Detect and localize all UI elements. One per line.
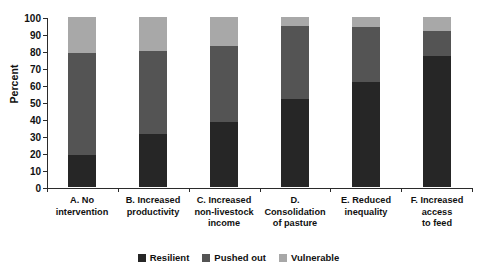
y-tick-label: 100 <box>24 13 41 24</box>
x-category-label-line: intervention <box>43 207 121 219</box>
bar-segment-resilient[interactable] <box>139 134 167 187</box>
bar-segment-resilient[interactable] <box>423 56 451 187</box>
bar-segment-pushed-out[interactable] <box>139 51 167 134</box>
bar-segment-vulnerable[interactable] <box>210 17 238 46</box>
y-tick-mark <box>43 103 47 104</box>
x-category-label-line: of pasture <box>256 218 334 230</box>
y-tick-label: 20 <box>30 149 41 160</box>
y-tick-label: 60 <box>30 81 41 92</box>
bar-d[interactable] <box>281 17 309 187</box>
bar-segment-resilient[interactable] <box>352 82 380 187</box>
x-category-label-line: B. Increased <box>114 195 192 207</box>
y-tick-mark <box>43 120 47 121</box>
bar-segment-vulnerable[interactable] <box>139 17 167 51</box>
bar-segment-resilient[interactable] <box>281 99 309 187</box>
x-tick-mark <box>330 188 331 192</box>
x-category-label: B. Increasedproductivity <box>114 195 192 218</box>
legend-label: Pushed out <box>214 252 266 263</box>
x-tick-mark <box>472 188 473 192</box>
bar-segment-vulnerable[interactable] <box>352 17 380 27</box>
y-tick-mark <box>43 137 47 138</box>
legend-swatch-icon <box>138 254 146 262</box>
bar-segment-pushed-out[interactable] <box>352 27 380 81</box>
y-tick-mark <box>43 154 47 155</box>
bar-a[interactable] <box>68 17 96 187</box>
x-category-label-line: to feed <box>398 218 476 230</box>
x-tick-mark <box>118 188 119 192</box>
legend-item-vulnerable[interactable]: Vulnerable <box>279 252 339 263</box>
legend-item-pushed-out[interactable]: Pushed out <box>202 252 266 263</box>
bar-b[interactable] <box>139 17 167 187</box>
x-category-label: C. Increasednon-livestockincome <box>185 195 263 230</box>
x-tick-mark <box>47 188 48 192</box>
x-category-label-line: Consolidation <box>256 207 334 219</box>
bar-segment-vulnerable[interactable] <box>281 17 309 26</box>
y-tick-mark <box>43 18 47 19</box>
bar-segment-pushed-out[interactable] <box>423 31 451 57</box>
x-category-label: D.Consolidationof pasture <box>256 195 334 230</box>
bar-f[interactable] <box>423 17 451 187</box>
bar-e[interactable] <box>352 17 380 187</box>
bar-c[interactable] <box>210 17 238 187</box>
legend-item-resilient[interactable]: Resilient <box>138 252 190 263</box>
x-category-label-line: F. Increased <box>398 195 476 207</box>
x-category-label-line: access <box>398 207 476 219</box>
x-category-label: E. Reducedinequality <box>327 195 405 218</box>
x-tick-mark <box>260 188 261 192</box>
x-category-label-line: A. No <box>43 195 121 207</box>
y-tick-mark <box>43 52 47 53</box>
bar-segment-pushed-out[interactable] <box>281 26 309 99</box>
stacked-bar-chart: Percent 0102030405060708090100 A. Nointe… <box>0 0 477 272</box>
bar-segment-pushed-out[interactable] <box>68 53 96 155</box>
legend-swatch-icon <box>202 254 210 262</box>
y-axis-title: Percent <box>8 54 20 114</box>
legend-swatch-icon <box>279 254 287 262</box>
y-tick-mark <box>43 171 47 172</box>
x-category-label-line: C. Increased <box>185 195 263 207</box>
bar-segment-vulnerable[interactable] <box>423 17 451 31</box>
x-tick-mark <box>189 188 190 192</box>
y-tick-label: 40 <box>30 115 41 126</box>
x-category-label-line: inequality <box>327 207 405 219</box>
plot-area: 0102030405060708090100 <box>47 18 472 188</box>
x-tick-mark <box>401 188 402 192</box>
x-category-label-line: E. Reduced <box>327 195 405 207</box>
x-category-label-line: non-livestock <box>185 207 263 219</box>
y-tick-mark <box>43 35 47 36</box>
y-tick-mark <box>43 69 47 70</box>
x-category-label-line: D. <box>256 195 334 207</box>
bar-segment-pushed-out[interactable] <box>210 46 238 123</box>
x-category-label-line: productivity <box>114 207 192 219</box>
legend-label: Resilient <box>150 252 190 263</box>
y-tick-label: 90 <box>30 30 41 41</box>
y-tick-label: 50 <box>30 98 41 109</box>
chart-legend: ResilientPushed outVulnerable <box>0 252 477 263</box>
y-tick-mark <box>43 86 47 87</box>
x-category-label-line: income <box>185 218 263 230</box>
legend-label: Vulnerable <box>291 252 339 263</box>
y-tick-label: 70 <box>30 64 41 75</box>
bar-segment-resilient[interactable] <box>68 155 96 187</box>
y-tick-label: 10 <box>30 166 41 177</box>
y-tick-label: 30 <box>30 132 41 143</box>
y-axis-line <box>47 18 48 189</box>
y-tick-label: 0 <box>35 183 41 194</box>
y-tick-label: 80 <box>30 47 41 58</box>
x-category-label: A. Nointervention <box>43 195 121 218</box>
bar-segment-resilient[interactable] <box>210 122 238 187</box>
x-category-label: F. Increasedaccessto feed <box>398 195 476 230</box>
bar-segment-vulnerable[interactable] <box>68 17 96 53</box>
